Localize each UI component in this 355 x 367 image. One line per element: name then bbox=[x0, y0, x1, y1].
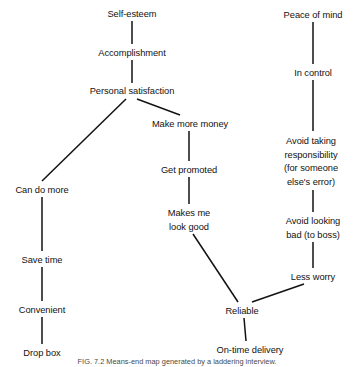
node-less-worry[interactable]: Less worry bbox=[291, 271, 335, 285]
node-accomplishment[interactable]: Accomplishment bbox=[98, 47, 166, 61]
node-label-line: (for someone bbox=[284, 162, 338, 176]
node-make-more-money[interactable]: Make more money bbox=[152, 118, 228, 132]
edge-makes-me-look-good-to-reliable bbox=[193, 234, 238, 302]
node-label-line: On-time delivery bbox=[217, 344, 284, 358]
node-get-promoted[interactable]: Get promoted bbox=[161, 164, 217, 178]
node-label-line: Make more money bbox=[152, 118, 228, 132]
node-reliable[interactable]: Reliable bbox=[225, 305, 258, 319]
node-peace-of-mind[interactable]: Peace of mind bbox=[284, 9, 343, 23]
node-label-line: Convenient bbox=[19, 304, 66, 318]
node-label-line: Can do more bbox=[15, 184, 68, 198]
edge-less-worry-to-reliable bbox=[252, 284, 304, 302]
node-label-line: Makes me bbox=[168, 207, 210, 221]
node-in-control[interactable]: In control bbox=[294, 67, 332, 81]
node-can-do-more[interactable]: Can do more bbox=[15, 184, 68, 198]
node-label-line: Accomplishment bbox=[98, 47, 166, 61]
node-label-line: bad (to boss) bbox=[286, 229, 340, 243]
edge-reliable-to-on-time-delivery bbox=[244, 318, 246, 341]
node-label-line: Self-esteem bbox=[107, 8, 156, 22]
node-on-time-delivery[interactable]: On-time delivery bbox=[217, 344, 284, 358]
figure-caption: FIG. 7.2 Means-end map generated by a la… bbox=[78, 357, 277, 366]
node-label-line: look good bbox=[168, 221, 210, 235]
node-label-line: Drop box bbox=[23, 347, 60, 361]
node-label-line: Less worry bbox=[291, 271, 335, 285]
node-label-line: Get promoted bbox=[161, 164, 217, 178]
node-drop-box[interactable]: Drop box bbox=[23, 347, 60, 361]
node-makes-me-look-good[interactable]: Makes melook good bbox=[168, 207, 210, 234]
node-label-line: Personal satisfaction bbox=[90, 85, 175, 99]
node-label-line: else's error) bbox=[284, 176, 338, 190]
edge-personal-satisfaction-to-make-more-money bbox=[137, 99, 180, 115]
node-personal-satisfaction[interactable]: Personal satisfaction bbox=[90, 85, 175, 99]
node-label-line: Reliable bbox=[225, 305, 258, 319]
node-label-line: responsibility bbox=[284, 149, 338, 163]
node-avoid-taking-responsibility[interactable]: Avoid takingresponsibility(for someoneel… bbox=[284, 135, 338, 189]
node-label-line: Save time bbox=[22, 254, 63, 268]
means-end-diagram: Self-esteemAccomplishmentPersonal satisf… bbox=[0, 0, 355, 367]
node-avoid-looking-bad[interactable]: Avoid lookingbad (to boss) bbox=[286, 215, 340, 242]
node-save-time[interactable]: Save time bbox=[22, 254, 63, 268]
node-self-esteem[interactable]: Self-esteem bbox=[107, 8, 156, 22]
node-label-line: Peace of mind bbox=[284, 9, 343, 23]
node-convenient[interactable]: Convenient bbox=[19, 304, 66, 318]
node-label-line: Avoid looking bbox=[286, 215, 340, 229]
edge-personal-satisfaction-to-can-do-more bbox=[42, 99, 126, 181]
node-label-line: Avoid taking bbox=[284, 135, 338, 149]
node-label-line: In control bbox=[294, 67, 332, 81]
